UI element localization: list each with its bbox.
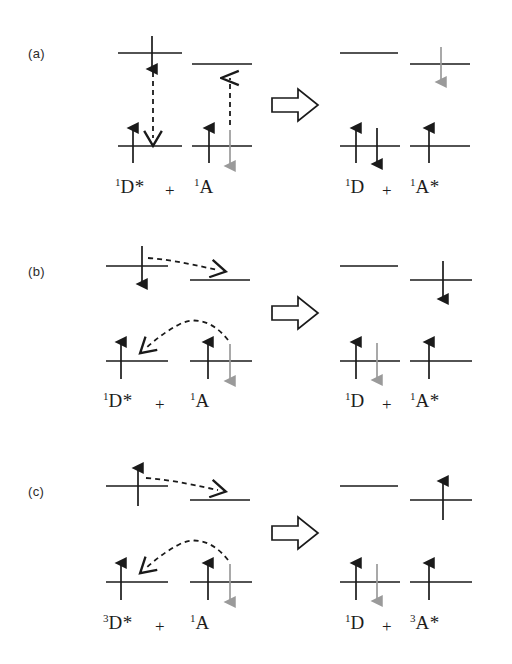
product-acceptor-term: 1A*	[410, 390, 440, 412]
excited-star: *	[430, 176, 440, 197]
reactant-acceptor-term: 1A	[190, 612, 210, 634]
excited-star: *	[123, 612, 133, 633]
product-plus: +	[382, 617, 392, 637]
homo-backtransfer-dashed-arrow	[146, 321, 228, 348]
panel-b: (b)	[0, 224, 512, 440]
species-symbol: D	[109, 390, 123, 411]
product-donor-term: 1D	[345, 176, 365, 198]
species-symbol: A	[200, 176, 214, 197]
excited-star: *	[135, 176, 145, 197]
panel-a-stage: 1D* + 1A 1D + 1A*	[0, 0, 512, 224]
reactant-plus: +	[155, 395, 165, 415]
excited-star: *	[430, 612, 440, 633]
reactant-donor-term: 1D*	[115, 176, 145, 198]
product-plus: +	[382, 395, 392, 415]
implies-block-arrow	[272, 517, 318, 549]
panel-a: (a)	[0, 0, 512, 224]
product-acceptor-term: 3A*	[410, 612, 440, 634]
lumo-transfer-dashed-arrow	[146, 478, 218, 490]
excited-star: *	[430, 390, 440, 411]
species-symbol: A	[196, 390, 210, 411]
homo-backtransfer-dashed-arrow	[146, 541, 228, 568]
species-symbol: A	[416, 176, 430, 197]
reactant-donor-term: 3D*	[103, 612, 133, 634]
lumo-transfer-dashed-arrow	[148, 258, 218, 270]
reactant-plus: +	[165, 181, 175, 201]
reactant-acceptor-term: 1A	[194, 176, 214, 198]
reactant-donor-term: 1D*	[103, 390, 133, 412]
species-symbol: D	[351, 612, 365, 633]
species-symbol: A	[196, 612, 210, 633]
product-plus: +	[382, 181, 392, 201]
species-symbol: D	[351, 390, 365, 411]
panel-c-stage: 3D* + 1A 1D + 3A*	[0, 440, 512, 664]
implies-block-arrow	[272, 89, 318, 121]
product-acceptor-term: 1A*	[410, 176, 440, 198]
species-symbol: D	[121, 176, 135, 197]
implies-block-arrow	[272, 297, 318, 329]
panel-b-stage: 1D* + 1A 1D + 1A*	[0, 224, 512, 440]
panel-c: (c)	[0, 440, 512, 664]
species-symbol: D	[351, 176, 365, 197]
species-symbol: A	[416, 612, 430, 633]
product-donor-term: 1D	[345, 612, 365, 634]
product-donor-term: 1D	[345, 390, 365, 412]
reactant-acceptor-term: 1A	[190, 390, 210, 412]
excited-star: *	[123, 390, 133, 411]
species-symbol: A	[416, 390, 430, 411]
reactant-plus: +	[155, 617, 165, 637]
species-symbol: D	[109, 612, 123, 633]
